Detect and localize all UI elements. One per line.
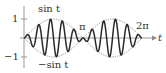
label-y-one: 1	[12, 13, 18, 24]
plot-canvas: sin t −sin t π 2π t 1 −1	[0, 0, 166, 73]
x-axis-arrow-icon	[152, 36, 157, 41]
label-pi: π	[79, 21, 86, 32]
label-two-pi: 2π	[136, 20, 149, 31]
label-sin-t: sin t	[38, 3, 60, 14]
label-y-neg-one: −1	[4, 51, 19, 62]
label-neg-sin-t: −sin t	[38, 59, 68, 70]
label-t-axis: t	[158, 32, 163, 43]
